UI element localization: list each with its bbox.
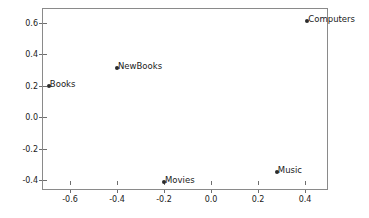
x-axis-tick-outer (70, 190, 71, 193)
x-axis-tick-label: -0.4 (109, 195, 125, 204)
y-axis-tick-label: 0.0 (25, 113, 38, 122)
y-axis-tick (43, 54, 47, 55)
scatter-plot-figure: -0.6-0.4-0.20.00.20.4 0.60.40.20.0-0.2-0… (0, 0, 369, 218)
data-point-label: Movies (165, 175, 195, 185)
data-point-label: Books (50, 79, 76, 89)
x-axis-tick (117, 181, 118, 185)
x-axis-tick (258, 181, 259, 185)
y-axis-tick-outer (39, 23, 42, 24)
y-axis-tick-outer (39, 117, 42, 118)
data-point-label: NewBooks (118, 61, 162, 71)
y-axis-tick (43, 149, 47, 150)
plot-area (42, 8, 328, 190)
y-axis-tick-outer (39, 149, 42, 150)
y-axis-tick-label: 0.2 (25, 81, 38, 90)
x-axis-tick-label: 0.2 (252, 195, 265, 204)
x-axis-tick-label: -0.6 (62, 195, 78, 204)
y-axis-tick-label: 0.4 (25, 50, 38, 59)
x-axis-tick-outer (117, 190, 118, 193)
data-point-label: Music (278, 165, 302, 175)
x-axis-tick-label: 0.4 (299, 195, 312, 204)
y-axis-tick-outer (39, 180, 42, 181)
x-axis-tick-label: 0.0 (205, 195, 218, 204)
x-axis-tick-outer (258, 190, 259, 193)
x-axis-tick-outer (164, 190, 165, 193)
x-axis-tick (70, 181, 71, 185)
y-axis-tick-outer (39, 86, 42, 87)
y-axis-tick (43, 23, 47, 24)
y-axis-tick (43, 117, 47, 118)
y-axis-tick (43, 180, 47, 181)
x-axis-tick (211, 181, 212, 185)
x-axis-tick-label: -0.2 (156, 195, 172, 204)
x-axis-tick-outer (211, 190, 212, 193)
x-axis-tick-outer (305, 190, 306, 193)
data-point-label: Computers (308, 14, 355, 24)
y-axis-tick-label: 0.6 (25, 18, 38, 27)
y-axis-tick-label: -0.2 (22, 144, 38, 153)
x-axis-tick (305, 181, 306, 185)
y-axis-tick-label: -0.4 (22, 176, 38, 185)
y-axis-tick-outer (39, 54, 42, 55)
